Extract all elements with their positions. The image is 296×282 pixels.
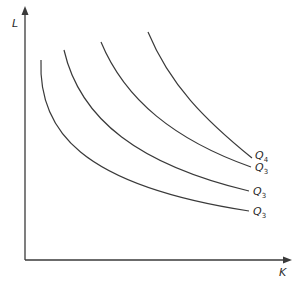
isoquant-curve-4 (148, 32, 252, 158)
y-axis-arrow-icon (22, 6, 29, 15)
isoquant-curve-1 (41, 60, 249, 211)
curve-2-label: Q3 (253, 185, 266, 200)
x-axis-arrow-icon (283, 257, 292, 264)
isoquant-curve-2 (64, 50, 249, 191)
isoquant-diagram: L K Q4 Q3 Q3 Q3 (0, 0, 296, 282)
x-axis-label: K (279, 266, 287, 279)
curve-1-label: Q3 (253, 205, 266, 220)
y-axis-label: L (12, 17, 18, 30)
isoquant-curve-3 (101, 42, 251, 167)
